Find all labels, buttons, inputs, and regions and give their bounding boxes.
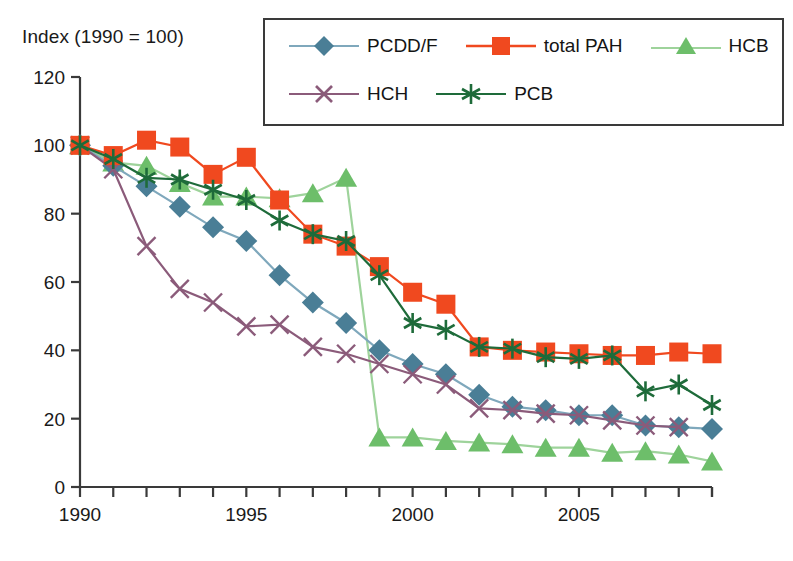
x-tick-label: 2000 — [391, 504, 433, 525]
legend-marker-asterisk-icon — [434, 82, 508, 106]
y-tick-label: 20 — [44, 409, 65, 430]
chart-series-hch — [71, 136, 688, 436]
legend-entry-total-pah[interactable]: total PAH — [464, 34, 623, 58]
data-point-marker — [501, 396, 523, 418]
y-tick-label: 60 — [44, 272, 65, 293]
data-point-marker — [270, 191, 289, 210]
legend-label-total-pah: total PAH — [544, 35, 623, 57]
data-point-marker — [669, 343, 688, 362]
legend-entry-pcdd-f[interactable]: PCDD/F — [287, 34, 438, 58]
y-tick-label: 100 — [33, 135, 65, 156]
y-tick-label: 40 — [44, 340, 65, 361]
data-point-marker — [170, 138, 189, 157]
chart-legend: PCDD/F total PAH HCB — [263, 18, 784, 126]
data-point-marker — [237, 148, 256, 167]
legend-row-1: PCDD/F total PAH HCB — [287, 34, 793, 58]
chart-axis-title: Index (1990 = 100) — [22, 26, 184, 48]
data-point-marker — [601, 404, 623, 426]
x-tick-label: 2005 — [558, 504, 600, 525]
legend-label-pcb: PCB — [514, 83, 553, 105]
series-line — [80, 145, 679, 427]
x-tick-label: 1995 — [225, 504, 267, 525]
legend-label-pcdd-f: PCDD/F — [367, 35, 438, 57]
chart-series-pcdd-f — [69, 134, 723, 440]
chart-series-total-pah — [71, 131, 722, 365]
series-line — [80, 140, 712, 355]
data-point-marker — [169, 196, 191, 218]
y-tick-label: 80 — [44, 204, 65, 225]
y-tick-label: 0 — [54, 477, 65, 498]
legend-marker-diamond-icon — [287, 34, 361, 58]
legend-row-2: HCH PCB — [287, 82, 579, 106]
data-point-marker — [535, 399, 557, 421]
legend-entry-pcb[interactable]: PCB — [434, 82, 553, 106]
data-point-marker — [436, 295, 455, 314]
legend-label-hcb: HCB — [729, 35, 769, 57]
data-point-marker — [636, 346, 655, 365]
legend-marker-square-icon — [464, 34, 538, 58]
data-point-marker — [403, 283, 422, 302]
legend-label-hch: HCH — [367, 83, 408, 105]
data-point-marker — [701, 418, 723, 440]
legend-entry-hcb[interactable]: HCB — [649, 34, 769, 58]
y-tick-label: 120 — [33, 67, 65, 88]
legend-marker-cross-icon — [287, 82, 361, 106]
data-point-marker — [137, 131, 156, 150]
data-point-marker — [703, 344, 722, 363]
x-tick-label: 1990 — [59, 504, 101, 525]
legend-entry-hch[interactable]: HCH — [287, 82, 408, 106]
legend-marker-triangle-icon — [649, 34, 723, 58]
data-point-marker — [302, 183, 324, 202]
chart-figure: Index (1990 = 100) PCDD/F — [0, 0, 793, 561]
data-point-marker — [202, 216, 224, 238]
data-point-marker — [335, 168, 357, 187]
